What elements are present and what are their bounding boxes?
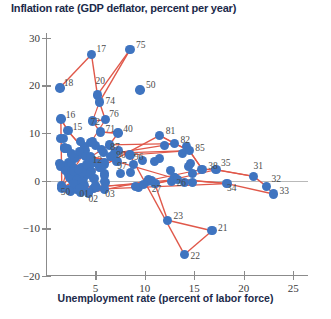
data-point [222, 179, 232, 189]
data-point [86, 152, 96, 162]
data-point [125, 150, 135, 160]
y-tick-label: 20 [29, 79, 40, 91]
data-point [139, 180, 148, 189]
data-point [57, 183, 67, 193]
data-point [197, 165, 207, 175]
data-point [88, 116, 98, 126]
data-point [56, 114, 66, 124]
series-segment [97, 50, 130, 95]
series-segment [60, 54, 92, 87]
series-segment [184, 231, 212, 255]
series-segment [130, 155, 184, 255]
plot-area: 3020100−10−20 510152025 1718207550741672… [46, 33, 308, 276]
y-tick-label: 30 [29, 32, 40, 44]
data-point [96, 127, 106, 137]
series-segment [99, 50, 130, 102]
y-tick-mark [42, 276, 51, 277]
data-point [160, 141, 169, 150]
series-segment [155, 184, 168, 221]
data-point [84, 188, 94, 198]
y-tick-label: −10 [23, 222, 40, 234]
data-point [75, 184, 85, 194]
data-point [113, 128, 123, 138]
data-point [76, 137, 85, 146]
data-point [100, 184, 110, 194]
y-tick-label: −20 [23, 270, 40, 282]
data-point [125, 45, 135, 55]
x-tick-label: 25 [288, 282, 299, 294]
data-point [166, 166, 175, 175]
data-point [95, 97, 105, 107]
data-point [188, 178, 197, 187]
data-point [88, 137, 97, 146]
series-segment [216, 170, 254, 177]
data-point [55, 83, 65, 93]
x-axis-title: Unemployment rate (percent of labor forc… [58, 292, 274, 304]
data-point [150, 179, 160, 189]
data-point [63, 126, 73, 136]
chart-title: Inflation rate (GDP deflator, percent pe… [11, 2, 236, 14]
data-point [150, 157, 159, 166]
phillips-curve-chart: Inflation rate (GDP deflator, percent pe… [0, 0, 331, 319]
data-point [74, 165, 83, 174]
series-segment [168, 220, 212, 230]
series-segment [91, 54, 97, 95]
series-segment [61, 119, 62, 188]
y-tick-label: 10 [29, 127, 40, 139]
data-point [135, 85, 145, 95]
y-tick-label: 0 [35, 175, 41, 187]
data-point [269, 189, 279, 199]
